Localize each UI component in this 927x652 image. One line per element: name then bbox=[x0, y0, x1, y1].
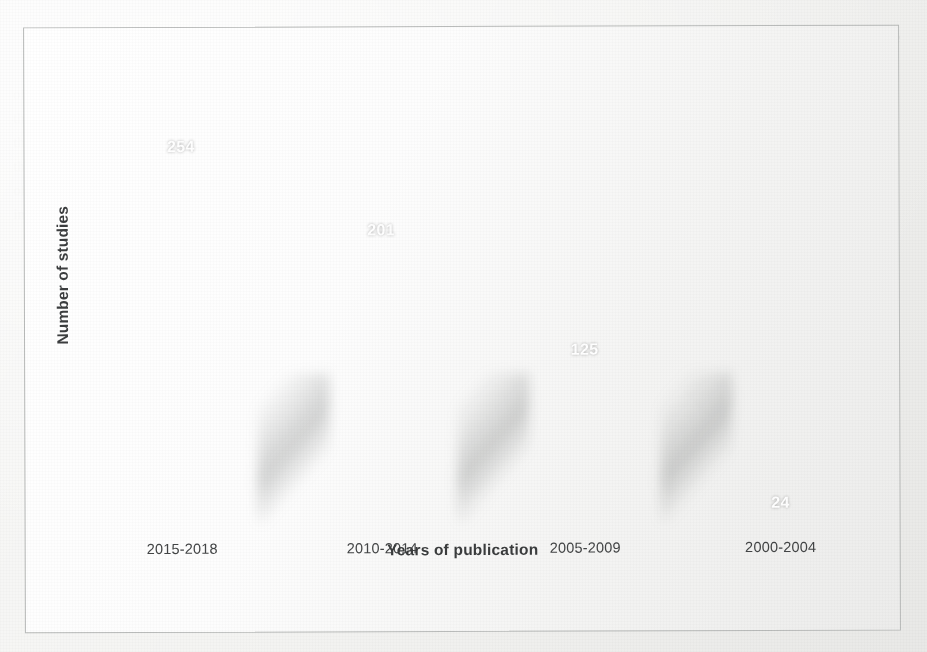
scanned-page: the the th of the of and the the of the … bbox=[0, 0, 927, 652]
bar-value-label-2010-2014: 201 bbox=[306, 221, 457, 239]
bar-group-2005-2009: 125 2005-2009 bbox=[509, 324, 661, 522]
bar-chart: Number of studies 254 2015-2018 201 2010… bbox=[23, 25, 901, 634]
bar-value-label-2015-2018: 254 bbox=[105, 138, 256, 156]
bar-value-label-2000-2004: 24 bbox=[710, 493, 852, 511]
bar-group-2000-2004: 24 2000-2004 bbox=[709, 484, 851, 522]
bar-group-2015-2018: 254 2015-2018 bbox=[105, 122, 257, 524]
bar-group-2010-2014: 201 2010-2014 bbox=[306, 205, 458, 523]
bar-value-label-2005-2009: 125 bbox=[509, 340, 660, 358]
x-axis-title: Years of publication bbox=[26, 540, 900, 561]
plot-area: Number of studies 254 2015-2018 201 2010… bbox=[24, 26, 900, 633]
